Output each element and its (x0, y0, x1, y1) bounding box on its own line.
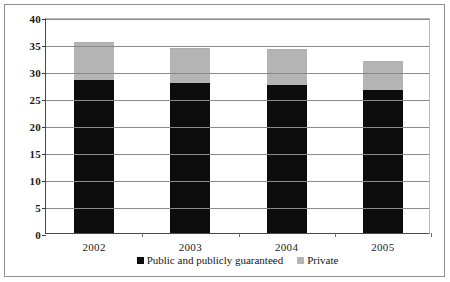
y-axis-tick-label: 0 (35, 229, 41, 241)
y-axis-tick-mark (42, 100, 46, 101)
y-axis-tick-label: 5 (35, 202, 41, 214)
bar-segment (363, 90, 403, 233)
gridline (46, 154, 429, 155)
y-axis-tick-label: 35 (30, 40, 41, 52)
legend-item: Public and publicly guaranteed (137, 254, 284, 266)
y-axis-tick-label: 30 (30, 67, 41, 79)
gridline (46, 73, 429, 74)
y-axis-tick-mark (42, 181, 46, 182)
bar-segment (74, 80, 114, 233)
legend-label: Public and publicly guaranteed (147, 254, 284, 266)
y-axis-tick-label: 20 (30, 121, 41, 133)
bar-segment (363, 61, 403, 91)
chart-legend: Public and publicly guaranteedPrivate (45, 254, 430, 266)
black-square-marker (137, 257, 144, 264)
y-axis-tick-mark (42, 19, 46, 20)
y-axis-tick-mark (42, 46, 46, 47)
y-axis-tick-mark (42, 235, 46, 236)
gridline (46, 127, 429, 128)
y-axis-tick-label: 15 (30, 148, 41, 160)
gridline (46, 208, 429, 209)
x-axis-tick-mark (142, 233, 143, 237)
gridline (46, 19, 429, 20)
chart-figure: 2002200320042005 0510152025303540 Public… (0, 0, 450, 282)
bar-group: 2003 (170, 48, 210, 233)
y-axis-tick-mark (42, 127, 46, 128)
plot-area: 2002200320042005 0510152025303540 (45, 18, 430, 234)
bar-group: 2004 (267, 49, 307, 233)
bar-segment (170, 83, 210, 233)
gridline (46, 100, 429, 101)
gridline (46, 181, 429, 182)
bar-segment (170, 48, 210, 83)
y-axis-tick-mark (42, 208, 46, 209)
bar-group: 2002 (74, 42, 114, 233)
x-axis-tick-mark (239, 233, 240, 237)
x-axis-tick-mark (431, 233, 432, 237)
x-axis-tick-mark (335, 233, 336, 237)
gray-square-marker (297, 257, 304, 264)
y-axis-tick-mark (42, 154, 46, 155)
y-axis-tick-label: 25 (30, 94, 41, 106)
x-axis-category-label: 2005 (363, 241, 403, 253)
legend-item: Private (297, 254, 338, 266)
y-axis-tick-label: 40 (30, 13, 41, 25)
x-axis-category-label: 2003 (170, 241, 210, 253)
y-axis-tick-mark (42, 73, 46, 74)
x-axis-category-label: 2002 (74, 241, 114, 253)
y-axis-tick-label: 10 (30, 175, 41, 187)
x-axis-category-label: 2004 (267, 241, 307, 253)
gridline (46, 46, 429, 47)
bar-segment (267, 85, 307, 234)
bar-segment (267, 49, 307, 84)
legend-label: Private (307, 254, 338, 266)
bar-segment (74, 42, 114, 80)
